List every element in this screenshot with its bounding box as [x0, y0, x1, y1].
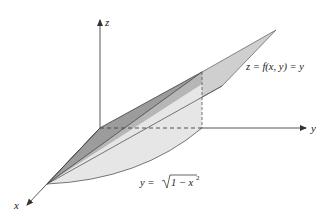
surface-label: z = f(x, y) = y [245, 61, 304, 73]
y-axis-label: y [310, 122, 316, 134]
curve-label-exponent: 2 [196, 174, 200, 182]
curve-label-radicand: 1 − x [171, 177, 194, 188]
solid-edge-mid [47, 86, 222, 184]
x-axis-label: x [13, 199, 19, 211]
diagram-canvas: z y x z = f(x, y) = y y = 1 − x 2 [0, 0, 333, 216]
curve-label-lhs: y = [139, 177, 154, 188]
z-axis-label: z [104, 16, 110, 28]
curve-label: y = 1 − x 2 [139, 174, 200, 188]
